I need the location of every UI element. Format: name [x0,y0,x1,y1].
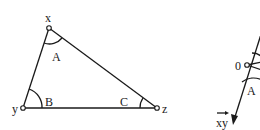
vertex-x-label: x [45,11,51,25]
triangle-xyz: x y z A B C [12,11,167,116]
angle-arc-a [44,38,62,44]
vector-line [234,28,260,120]
angle-arc-b [29,89,42,108]
arc-upper [252,53,260,57]
angle-a-label: A [52,50,61,64]
vector-figure: 0 A xy [216,28,260,130]
angle-arc-a-right [242,78,260,82]
vertex-z-point [155,106,160,111]
angle-a-right-label: A [247,84,256,98]
angle-arc-c [140,98,143,108]
vertex-y-point [21,106,26,111]
angle-b-label: B [45,95,53,109]
geometry-diagram: x y z A B C 0 A xy [0,0,260,130]
angle-c-label: C [120,95,128,109]
arrowhead-icon [231,114,238,125]
vector-xy-label: xy [216,116,228,130]
vertex-z-label: z [162,102,167,116]
vertex-x-point [47,26,52,31]
vertex-y-label: y [12,102,18,116]
side-xz [49,28,157,108]
origin-label: 0 [235,59,241,73]
vector-arrow-icon [225,111,229,115]
origin-point [245,63,250,68]
